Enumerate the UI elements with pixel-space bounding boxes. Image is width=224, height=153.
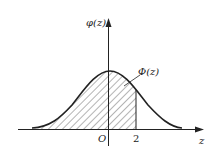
- x-axis-arrow-icon: [195, 127, 204, 133]
- origin-label: O: [98, 133, 106, 144]
- x-axis-label: z: [198, 135, 205, 146]
- y-axis-arrow-icon: [106, 18, 112, 27]
- tick-label-2: 2: [133, 133, 139, 144]
- y-axis-label: φ(z): [86, 17, 106, 28]
- shaded-area-phi: [32, 71, 136, 129]
- area-label: Φ(z): [138, 66, 159, 77]
- normal-distribution-diagram: φ(z) Φ(z) O 2 z: [0, 0, 224, 153]
- diagram-canvas: φ(z) Φ(z) O 2 z: [0, 0, 224, 153]
